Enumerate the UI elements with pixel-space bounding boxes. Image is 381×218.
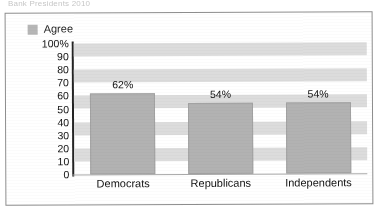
x-axis-line — [72, 173, 367, 175]
y-axis-tick-100: 100% — [42, 38, 69, 49]
plot-region: 100%9080706050403020100 62%54%54% Democr… — [31, 42, 368, 196]
bar-value-label-republicans: 54% — [210, 89, 231, 100]
plot-area: 62%54%54% — [74, 42, 368, 174]
y-axis-tick-40: 40 — [57, 117, 69, 128]
bar-value-label-independents: 54% — [308, 89, 329, 100]
bar-value-label-democrats: 62% — [112, 79, 133, 90]
y-axis-tick-20: 20 — [57, 143, 69, 154]
legend-label-agree: Agree — [44, 24, 73, 35]
y-axis-tick-60: 60 — [57, 91, 69, 102]
chart-figure-frame: Agree 100%9080706050403020100 62%54%54% … — [5, 11, 374, 206]
y-axis-tick-0: 0 — [63, 169, 69, 180]
y-axis-tick-30: 30 — [57, 130, 69, 141]
x-axis-label-republicans: Republicans — [191, 177, 252, 190]
bar-republicans[interactable] — [188, 103, 253, 174]
x-axis-label-independents: Independents — [285, 176, 352, 189]
x-axis: DemocratsRepublicansIndependents — [74, 176, 367, 195]
scan-caption-fragment: Bank Presidents 2010 — [8, 0, 158, 7]
chart-legend: Agree — [28, 24, 73, 35]
legend-swatch-agree — [28, 24, 38, 34]
y-axis-tick-90: 90 — [57, 51, 69, 62]
y-axis: 100%9080706050403020100 — [31, 44, 70, 175]
y-axis-tick-80: 80 — [57, 64, 69, 75]
y-axis-tick-70: 70 — [57, 78, 69, 89]
y-axis-tick-10: 10 — [58, 156, 70, 167]
bar-democrats[interactable] — [90, 93, 155, 175]
x-axis-label-democrats: Democrats — [97, 177, 150, 190]
y-axis-tick-50: 50 — [57, 104, 69, 115]
grid-band-90-100 — [74, 42, 367, 56]
bar-independents[interactable] — [286, 103, 351, 174]
